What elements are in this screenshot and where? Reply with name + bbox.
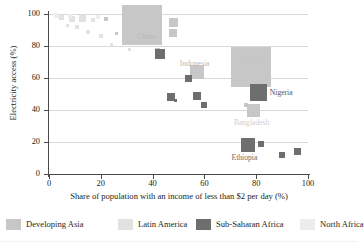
legend-label: North Africa (320, 219, 364, 230)
x-axis-tick-label: 80 (241, 180, 271, 188)
y-axis-tick-label: 60 (0, 74, 40, 82)
bubble-label-nigeria: Nigeria (270, 89, 293, 97)
bubble-marker (91, 18, 95, 22)
bubble-marker (279, 152, 285, 158)
legend-swatch (118, 219, 133, 230)
legend-item-sub-saharan-africa[interactable]: Sub-Saharan Africa (196, 219, 284, 230)
x-axis-spine (48, 174, 310, 175)
bubble-marker (294, 148, 301, 155)
chart-legend: Developing AsiaLatin AmericaSub-Saharan … (0, 219, 358, 235)
bubble-marker (54, 13, 59, 18)
bubble-marker (258, 141, 264, 147)
bubble-label-indonesia: Indonesia (180, 60, 210, 68)
gridline (49, 110, 308, 111)
bubble-marker (128, 48, 131, 51)
bubble-bangladesh (247, 104, 260, 117)
legend-swatch (300, 219, 315, 230)
x-axis-tick-label: 100 (293, 180, 323, 188)
bubble-marker (201, 102, 207, 108)
y-axis-tick-label: 80 (0, 42, 40, 50)
bubble-marker (75, 25, 79, 29)
gridline (49, 142, 308, 143)
bubble-nigeria (250, 84, 267, 101)
bubble-marker (66, 24, 69, 27)
legend-swatch (6, 219, 21, 230)
legend-label: Latin America (138, 219, 187, 230)
legend-item-latin-america[interactable]: Latin America (118, 219, 187, 230)
bubble-label-bangladesh: Bangladesh (234, 119, 269, 127)
bubble-label-ethiopia: Ethiopia (232, 154, 258, 162)
bubble-marker (122, 18, 126, 22)
bubble-marker (68, 14, 72, 18)
y-axis-tick-label: 40 (0, 106, 40, 114)
legend-item-north-africa[interactable]: North Africa (300, 219, 364, 230)
bubble-marker (115, 32, 118, 35)
x-axis-tick-label: 60 (189, 180, 219, 188)
bubble-marker (174, 99, 177, 102)
y-axis-spine (48, 11, 49, 177)
bubble-marker (169, 29, 177, 37)
bubble-marker (155, 49, 165, 59)
bubble-label-india: India (245, 54, 261, 62)
legend-swatch (196, 219, 211, 230)
bubble-marker (110, 43, 113, 46)
bubble-marker (136, 17, 139, 20)
bubble-label-china: China (137, 33, 155, 41)
bubble-marker (185, 75, 192, 82)
x-axis-title: Share of population with an income of le… (0, 191, 358, 201)
bubble-marker (169, 18, 178, 27)
bubble-ethiopia (241, 138, 255, 152)
bubble-marker (86, 30, 90, 34)
bubble-marker (96, 15, 100, 19)
x-axis-tick-label: 20 (86, 180, 116, 188)
legend-item-developing-asia[interactable]: Developing Asia (6, 219, 84, 230)
y-axis-tick-label: 20 (0, 138, 40, 146)
y-axis-title: Electricity access (%) (8, 8, 18, 158)
bubble-marker (244, 103, 248, 107)
bubble-marker (104, 17, 108, 21)
x-axis-tick-label: 0 (34, 180, 64, 188)
legend-label: Developing Asia (26, 219, 84, 230)
bubble-marker (99, 34, 103, 38)
legend-label: Sub-Saharan Africa (216, 219, 284, 230)
bubble-marker (79, 15, 86, 22)
gridline (49, 14, 308, 15)
bubble-marker (59, 15, 64, 20)
x-axis-tick-label: 40 (138, 180, 168, 188)
bubble-marker (193, 92, 201, 100)
bottom-edge-artifact (0, 241, 358, 242)
y-axis-tick-label: 0 (0, 170, 40, 178)
y-axis-tick-label: 100 (0, 10, 40, 18)
